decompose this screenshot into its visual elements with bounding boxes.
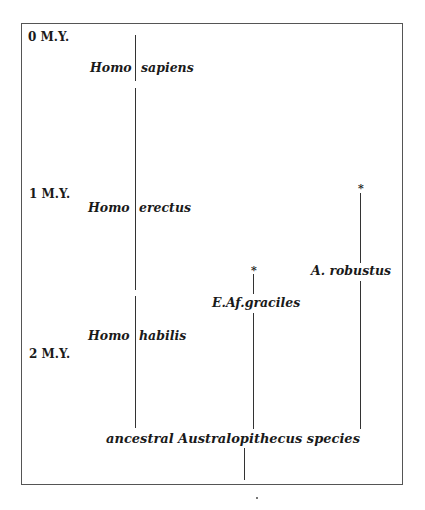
scan-speck — [256, 497, 258, 499]
time-label-0my: 0 M.Y. — [28, 30, 69, 44]
root-label: ancestral Australopithecus species — [106, 432, 360, 446]
time-label-1my: 1 M.Y. — [29, 187, 70, 201]
homo-sapiens-species: sapiens — [141, 61, 194, 75]
homo-erectus-species: erectus — [139, 201, 191, 215]
time-label-2my: 2 M.Y. — [29, 347, 70, 361]
root-stem-line — [244, 448, 245, 480]
graciles-line-upper — [253, 274, 254, 294]
robustus-label: A. robustus — [311, 264, 391, 278]
robustus-line-lower — [360, 281, 361, 429]
homo-habilis-species: habilis — [139, 329, 186, 343]
homo-sapiens-genus: Homo — [90, 61, 132, 75]
homo-habilis-genus: Homo — [88, 329, 130, 343]
graciles-line-lower — [253, 313, 254, 429]
homo-lineage-line-segment — [135, 88, 136, 290]
graciles-label: E.Af.graciles — [212, 296, 300, 310]
homo-erectus-genus: Homo — [88, 201, 130, 215]
homo-lineage-line-segment — [135, 35, 136, 81]
diagram-frame — [21, 23, 403, 485]
robustus-line-upper — [360, 193, 361, 263]
homo-lineage-line-segment — [135, 296, 136, 428]
